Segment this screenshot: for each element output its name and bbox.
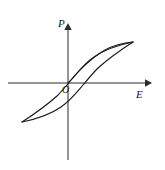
- y-axis-arrowhead: [64, 23, 71, 30]
- y-axis-label: P: [58, 18, 65, 29]
- x-axis-label: E: [136, 89, 143, 100]
- x-axis-arrowhead: [145, 79, 152, 86]
- hysteresis-plot-canvas: [0, 0, 165, 170]
- origin-label: O: [62, 85, 69, 95]
- hysteresis-figure: P E O: [0, 0, 165, 170]
- x-axis: [8, 79, 152, 86]
